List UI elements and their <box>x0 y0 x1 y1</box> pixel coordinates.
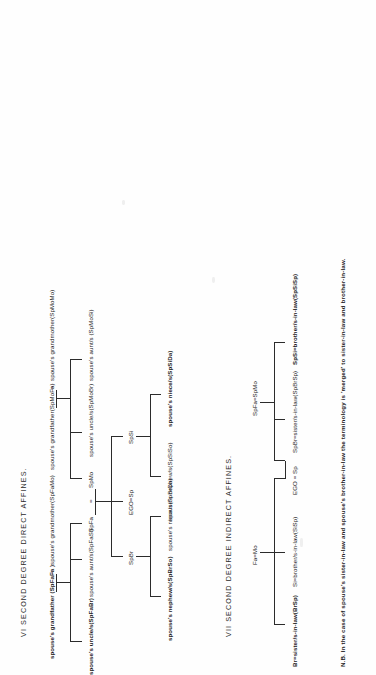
sibling-bar-left-couple <box>70 524 71 642</box>
drop-spsi-da <box>150 394 161 395</box>
diagram-vi-title: VI SECOND DEGREE DIRECT AFFINES. <box>20 467 27 637</box>
label-spbr-sp: SpBr=sister/s-in-law(SpBrSp) <box>292 371 298 453</box>
label-sp-si: SpSi <box>128 431 134 444</box>
marriage-link-fafa-famo <box>56 574 57 592</box>
descent-stem-right-couple <box>56 398 70 399</box>
sibling-bar-spouse-generation <box>111 437 112 557</box>
sibling-bar-spbr-children <box>150 517 151 597</box>
drop-spbr-da <box>150 516 161 517</box>
label-spsi-sp: SpSi=brother/s-in-law(SpSiSp) <box>292 274 298 365</box>
footnote: N.B. In the case of spouse's sister-in-l… <box>340 258 346 667</box>
label-sp-mofa: spouse's grandfather(SpMoFa) <box>49 383 55 470</box>
label-ego-sp: EGO=Sp <box>128 490 134 515</box>
drop-spbr <box>274 419 285 420</box>
scan-speckle <box>122 200 125 205</box>
marriage-link-spfa-spmo <box>95 489 96 515</box>
label-sp-fa: SpFa <box>88 517 94 532</box>
label-gen1-equals-left: = <box>49 570 55 574</box>
scanned-page: VI SECOND DEGREE DIRECT AFFINES. spouse'… <box>0 0 376 675</box>
drop-ego-sp <box>111 501 123 502</box>
label-fa-mo: Fa=Mo <box>252 545 258 565</box>
descent-stem-spfa-spmo-vii <box>260 402 274 403</box>
descent-stem-left-couple <box>56 582 70 583</box>
drop-sp-mobr <box>70 432 82 433</box>
label-br-sp: Br=sister/s-in-law(BrSp) <box>292 595 298 667</box>
drop-ego <box>274 478 285 479</box>
label-spsi-da: spouse's niece/s(SpSiDa) <box>167 351 173 427</box>
scan-speckle <box>212 277 215 283</box>
sibling-bar-spsi-children <box>150 395 151 477</box>
sibling-bar-spouse-family <box>274 343 275 461</box>
drop-si <box>274 552 285 553</box>
label-sp-mosi: spouse's aunt/s (SpMoSi) <box>88 309 94 381</box>
label-sp-mobr: spouse's uncle/s(SpMoBr) <box>88 384 94 457</box>
label-spsi-so: spouse's nephew/s(SpSiSo) <box>167 442 173 521</box>
drop-sp-mo <box>70 478 82 479</box>
marriage-link-ego-sp <box>285 461 286 479</box>
drop-sp <box>274 460 285 461</box>
drop-sp-fasi <box>70 559 82 560</box>
scan-speckle <box>300 538 303 547</box>
label-spbr-so: spouse's nephew/s(SpBrSo) <box>167 556 173 641</box>
label-si-sp: Si=brother/s-in-law(SiSp) <box>292 517 298 587</box>
marriage-link-mofa-momo <box>56 390 57 408</box>
label-sp-mo: SpMo <box>88 472 94 488</box>
drop-spsi-so <box>150 476 161 477</box>
descent-stem-sp-si <box>136 436 150 437</box>
drop-spbr-so <box>150 596 161 597</box>
drop-sp-br <box>111 556 123 557</box>
drop-spsi <box>274 342 285 343</box>
descent-stem-fa-mo <box>260 552 274 553</box>
label-spfa-spmo: SpFa=SpMo <box>252 381 258 416</box>
descent-stem-sp-br <box>136 556 150 557</box>
label-gen2-equals: = <box>88 499 94 503</box>
label-sp-br: SpBr <box>128 551 134 565</box>
label-ego-equals-sp: EGO = Sp <box>292 466 298 495</box>
label-gen1-equals-right: = <box>49 386 55 390</box>
label-sp-momo: spouse's grandmother(SpMoMo) <box>49 290 55 381</box>
sibling-bar-right-couple <box>70 360 71 479</box>
drop-sp-fabr <box>70 641 82 642</box>
drop-sp-si <box>111 436 123 437</box>
label-sp-fasi: spouse's aunt/s(SpFaSi) <box>88 529 94 598</box>
drop-br <box>274 624 285 625</box>
drop-sp-fa <box>70 523 82 524</box>
drop-sp-mosi <box>70 359 82 360</box>
label-sp-fafa: spouse's grandfather (SpFaFa ) <box>49 565 55 659</box>
label-sp-famo: spouse's grandmother(SpFaMo) <box>49 475 55 565</box>
label-sp-fabr: spouse's uncle/s(SpFaBr) <box>88 598 94 675</box>
page-sheet: VI SECOND DEGREE DIRECT AFFINES. spouse'… <box>0 0 376 675</box>
diagram-vii-title: VII SECOND DEGREE INDIRECT AFFINES. <box>225 455 232 637</box>
descent-stem-spfa-spmo <box>95 501 111 502</box>
